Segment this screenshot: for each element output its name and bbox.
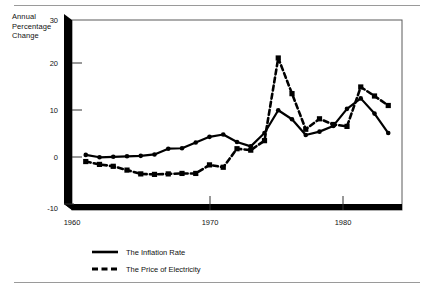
data-point: [193, 140, 198, 145]
x-axis-bar: [64, 204, 402, 210]
data-point: [111, 164, 116, 169]
data-point: [221, 165, 226, 170]
data-point: [207, 162, 212, 167]
data-point: [345, 107, 350, 112]
data-point: [248, 148, 253, 153]
data-point: [358, 84, 363, 89]
data-point: [152, 172, 157, 177]
chart-legend: The Inflation Rate The Price of Electric…: [92, 248, 201, 274]
y-tick-label-30: 30: [50, 16, 58, 25]
data-point: [344, 124, 349, 129]
y-tick-label-10: 10: [50, 106, 58, 115]
data-point: [125, 154, 130, 159]
data-point: [97, 162, 102, 167]
data-point: [372, 93, 377, 98]
data-point: [138, 171, 143, 176]
data-point: [124, 168, 129, 173]
chart-figure: Annual Percentage Change 30 20 10 0 -10: [0, 0, 434, 294]
data-point: [235, 140, 240, 145]
y-tick-label-0: 0: [54, 153, 58, 162]
data-point: [193, 171, 198, 176]
data-point: [276, 55, 281, 60]
plot-area: 30 20 10 0 -10 1960 1970 1980 The Inflat…: [0, 0, 434, 294]
data-point: [303, 127, 308, 132]
x-tick-labels: 1960 1970 1980: [64, 218, 352, 227]
data-point: [83, 153, 88, 158]
data-point: [83, 159, 88, 164]
data-point: [358, 96, 363, 101]
data-point: [303, 133, 308, 138]
data-point: [166, 146, 171, 151]
data-point: [97, 155, 102, 160]
data-point: [289, 91, 294, 96]
plot-frame: [72, 20, 402, 210]
data-point: [234, 146, 239, 151]
x-tick-label-1970: 1970: [202, 218, 219, 227]
data-point: [221, 132, 226, 137]
data-point: [276, 108, 281, 113]
data-point: [331, 122, 336, 127]
data-point: [386, 103, 391, 108]
data-point: [207, 135, 212, 140]
y-axis-bar: [64, 14, 72, 210]
legend-label-price-of-electricity: The Price of Electricity: [126, 265, 201, 274]
data-point: [138, 154, 143, 159]
y-tick-label-neg10: -10: [47, 204, 58, 213]
data-point: [372, 111, 377, 116]
data-point: [317, 129, 322, 134]
data-point: [166, 171, 171, 176]
legend-label-inflation-rate: The Inflation Rate: [126, 248, 185, 257]
data-point: [152, 152, 157, 157]
data-point: [179, 171, 184, 176]
data-point: [386, 131, 391, 136]
data-point: [317, 116, 322, 121]
data-point: [262, 138, 267, 143]
data-point: [180, 146, 185, 151]
x-tick-label-1980: 1980: [335, 218, 352, 227]
x-tick-label-1960: 1960: [64, 218, 81, 227]
data-point: [111, 155, 116, 160]
y-tick-label-20: 20: [50, 59, 58, 68]
y-tick-labels: 30 20 10 0 -10: [47, 16, 58, 213]
data-point: [290, 117, 295, 122]
